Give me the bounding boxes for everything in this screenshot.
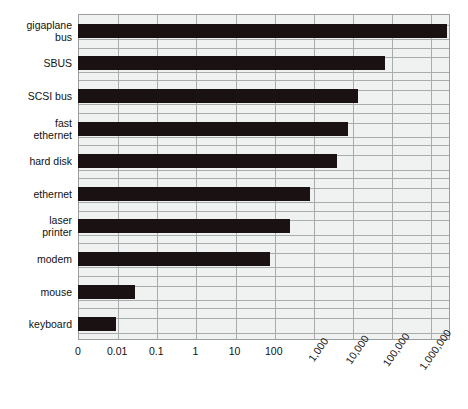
bar (78, 122, 348, 136)
category-label: fast ethernet (0, 117, 72, 141)
bar (78, 154, 337, 168)
bar (78, 89, 358, 103)
bar (78, 24, 447, 38)
category-label: laser printer (0, 214, 72, 238)
category-label: SCSI bus (0, 90, 72, 102)
bar (78, 56, 385, 70)
bar (78, 285, 135, 299)
x-tick-label: 1 (193, 345, 199, 357)
category-label: hard disk (0, 155, 72, 167)
bar (78, 252, 270, 266)
bar-chart: gigaplane busSBUSSCSI busfast ethernetha… (0, 0, 468, 409)
bar (78, 187, 310, 201)
category-axis-labels: gigaplane busSBUSSCSI busfast ethernetha… (0, 14, 72, 340)
x-tick-label: 10 (229, 345, 241, 357)
bars-layer (78, 14, 450, 340)
category-label: gigaplane bus (0, 19, 72, 43)
category-label: modem (0, 253, 72, 265)
x-axis-tick-labels: 00.010.11101001,00010,000100,0001,000,00… (0, 340, 468, 409)
x-tick-label: 0.1 (149, 345, 164, 357)
category-label: mouse (0, 286, 72, 298)
x-tick-label: 1,000 (305, 335, 330, 363)
x-tick-label: 0 (75, 345, 81, 357)
category-label: SBUS (0, 57, 72, 69)
x-tick-label: 0.01 (107, 345, 127, 357)
bar (78, 317, 116, 331)
bar (78, 219, 290, 233)
x-tick-label: 100 (265, 345, 283, 357)
category-label: ethernet (0, 188, 72, 200)
category-label: keyboard (0, 318, 72, 330)
